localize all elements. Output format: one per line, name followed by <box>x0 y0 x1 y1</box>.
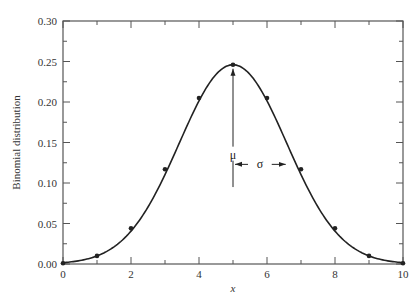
x-tick-label: 6 <box>264 268 270 280</box>
data-point-marker <box>129 226 134 231</box>
y-tick-label: 0.05 <box>38 218 58 230</box>
data-point-marker <box>265 96 270 101</box>
data-point-marker <box>61 261 66 266</box>
data-point-marker <box>95 254 100 259</box>
data-point-marker <box>163 167 168 172</box>
x-tick-label: 4 <box>196 268 202 280</box>
data-point-marker <box>197 96 202 101</box>
y-tick-label: 0.30 <box>38 15 58 27</box>
x-tick-label: 0 <box>60 268 66 280</box>
data-point-marker <box>367 254 372 259</box>
x-tick-label: 10 <box>398 268 410 280</box>
binomial-chart: 0.000.050.100.150.200.250.30 0246810 μσ … <box>0 0 420 306</box>
x-tick-label: 2 <box>128 268 134 280</box>
data-point-marker <box>231 62 236 67</box>
sigma-label: σ <box>257 157 264 171</box>
y-tick-label: 0.20 <box>38 96 58 108</box>
y-tick-label: 0.00 <box>38 258 58 270</box>
data-point-marker <box>299 167 304 172</box>
annotations: μσ <box>228 69 286 187</box>
y-axis-title: Binomial distribution <box>10 95 22 190</box>
y-tick-label: 0.25 <box>38 56 58 68</box>
data-point-marker <box>333 226 338 231</box>
x-tick-label: 8 <box>332 268 338 280</box>
mu-label: μ <box>230 148 236 162</box>
y-tick-label: 0.10 <box>38 177 58 189</box>
data-point-marker <box>401 261 406 266</box>
x-axis-title: x <box>230 282 236 294</box>
y-tick-label: 0.15 <box>38 137 58 149</box>
y-axis: 0.000.050.100.150.200.250.30 <box>38 15 403 270</box>
